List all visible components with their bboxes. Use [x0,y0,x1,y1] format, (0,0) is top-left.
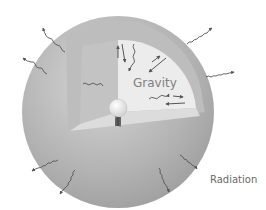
radiation-label: Radiation [210,174,257,185]
core-ball [109,99,127,117]
gravity-label: Gravity [133,76,177,90]
star-diagram: Gravity Radiation [0,0,266,210]
